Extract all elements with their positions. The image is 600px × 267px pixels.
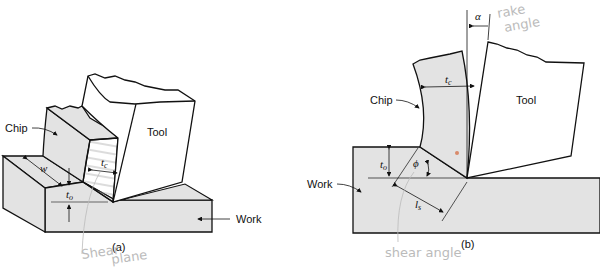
stain-mark xyxy=(455,151,459,155)
figure-a: w tc to Chip Tool Work (a) Shear plane xyxy=(3,74,262,267)
label-tool-b: Tool xyxy=(516,94,536,106)
rake-angle-dimension: α xyxy=(473,10,488,26)
label-phi: ϕ xyxy=(413,157,419,169)
tool-b xyxy=(467,42,584,178)
label-chip-a: Chip xyxy=(5,122,28,134)
label-w: w xyxy=(40,162,48,174)
label-tool-a: Tool xyxy=(147,126,167,138)
label-work-b: Work xyxy=(307,178,333,190)
label-work-a: Work xyxy=(236,213,262,225)
handwritten-shear-angle: shear angle xyxy=(385,245,462,260)
orthogonal-cutting-diagram: w tc to Chip Tool Work (a) Shear plane xyxy=(0,0,600,267)
caption-b: (b) xyxy=(461,238,474,250)
label-chip-b-group: Chip xyxy=(370,94,419,108)
label-alpha: α xyxy=(475,10,481,22)
label-chip-b: Chip xyxy=(370,94,393,106)
figure-b: α ls to ϕ tc Chip Tool Work xyxy=(307,1,600,260)
